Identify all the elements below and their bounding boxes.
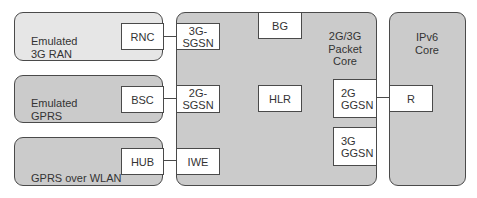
link-bsc-2g-sgsn xyxy=(163,98,177,99)
gprs-over-wlan-label: GPRS over WLAN xyxy=(31,172,121,185)
link-hub-iwe xyxy=(163,160,177,161)
3g-sgsn-node: 3G- SGSN xyxy=(176,23,220,50)
link-2g-ggsn-r xyxy=(376,97,390,98)
ipv6-core-label: IPv6 Core xyxy=(405,31,449,56)
rnc-node: RNC xyxy=(121,23,164,50)
2g-ggsn-node: 2G GGSN xyxy=(333,79,377,118)
bg-node: BG xyxy=(258,12,302,39)
emulated-gprs-label: Emulated GPRS xyxy=(31,97,77,122)
emulated-3g-ran-label: Emulated 3G RAN xyxy=(31,35,77,60)
hlr-node: HLR xyxy=(258,85,302,112)
hub-node: HUB xyxy=(121,148,164,175)
3g-ggsn-node: 3G GGSN xyxy=(333,127,377,166)
link-rnc-3g-sgsn xyxy=(163,36,177,37)
packet-core-label: 2G/3G Packet Core xyxy=(322,30,368,68)
2g-sgsn-node: 2G- SGSN xyxy=(176,85,220,113)
bsc-node: BSC xyxy=(121,86,164,113)
iwe-node: IWE xyxy=(176,148,220,175)
router-node: R xyxy=(389,85,433,112)
